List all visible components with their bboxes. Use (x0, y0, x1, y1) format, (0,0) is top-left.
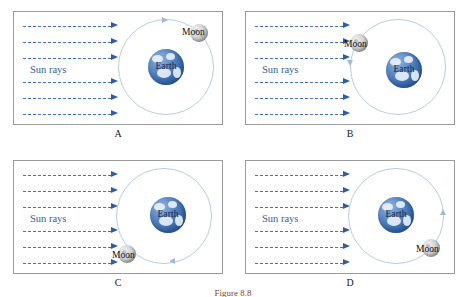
moon-label-c: Moon (112, 250, 135, 260)
panel-d: Sun rays Earth Moon (245, 160, 455, 274)
panel-caption-b: B (245, 128, 455, 139)
sun-rays-label-d: Sun rays (262, 213, 298, 224)
panel-a: Sun rays Earth Moon (13, 11, 223, 125)
earth-label-c: Earth (150, 209, 186, 219)
orbit-direction-arrow-a (162, 17, 168, 23)
earth-label-a: Earth (148, 61, 184, 71)
panel-b: Sun rays Earth Moon (245, 11, 455, 125)
orbit-direction-arrow-b (347, 60, 353, 66)
earth-moon-sun-figure: Sun rays Earth Moon A Sun rays (0, 0, 466, 297)
panel-caption-c: C (13, 277, 223, 288)
moon-label-b: Moon (344, 39, 367, 49)
sun-rays-label-b: Sun rays (262, 64, 298, 75)
panel-caption-d: D (245, 277, 455, 288)
earth-label-d: Earth (378, 209, 414, 219)
figure-caption: Figure 8.8 (0, 288, 466, 297)
moon-label-a: Moon (182, 27, 205, 37)
sun-rays-label-c: Sun rays (30, 213, 66, 224)
panel-c: Sun rays Earth Moon (13, 160, 223, 274)
panel-caption-a: A (13, 128, 223, 139)
moon-label-d: Moon (416, 244, 439, 254)
orbit-direction-arrow-d (440, 209, 446, 215)
sun-rays-label-a: Sun rays (30, 64, 66, 75)
orbit-direction-arrow-c (169, 258, 175, 264)
earth-label-b: Earth (386, 64, 422, 74)
